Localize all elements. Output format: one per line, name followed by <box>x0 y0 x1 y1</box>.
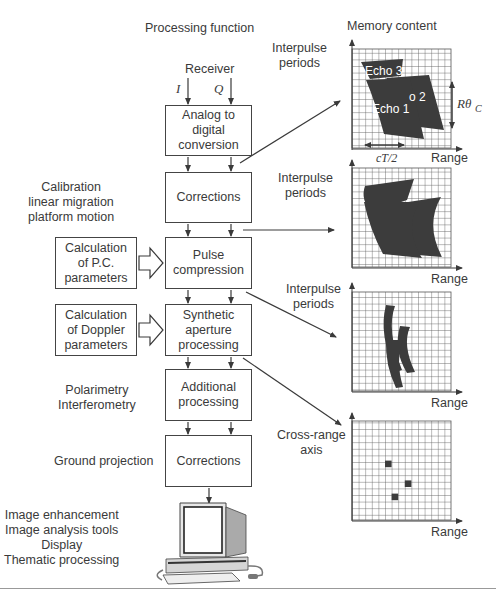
receiver-arrows <box>188 78 231 104</box>
memory-panel-3 <box>352 283 462 392</box>
doppler-block-arrow <box>139 315 163 345</box>
r-theta-subscript: C <box>475 103 482 114</box>
memory-panel-1: Echo 3 o 2 Echo 1 Rθ C <box>352 40 482 150</box>
point-target-1 <box>385 461 392 468</box>
echo-2-label: o 2 <box>409 90 426 104</box>
memory-panel-4 <box>352 413 462 521</box>
echo-3-label: Echo 3 <box>365 64 403 78</box>
r-theta-label: Rθ <box>456 96 472 111</box>
memory-arrows <box>240 101 341 425</box>
pc-block-arrow <box>139 248 163 278</box>
diagram-graphics: Echo 3 o 2 Echo 1 Rθ C <box>0 0 496 601</box>
point-target-3 <box>392 494 399 501</box>
bottom-rule <box>0 588 496 589</box>
point-target-2 <box>405 480 412 487</box>
computer-icon <box>157 503 262 584</box>
echo-1-label: Echo 1 <box>372 102 410 116</box>
pipeline-arrows <box>188 157 231 503</box>
memory-panel-2 <box>352 160 462 268</box>
